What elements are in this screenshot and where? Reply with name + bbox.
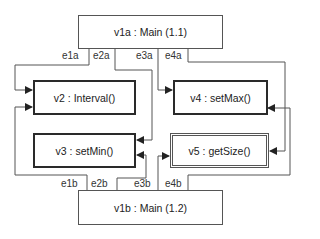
- edge-label-e4a: e4a: [165, 50, 182, 61]
- edge-label-e1b: e1b: [61, 178, 78, 189]
- edge-label-e2a: e2a: [93, 50, 110, 61]
- edge-label-e1a: e1a: [62, 50, 79, 61]
- node-v5-label: v5 : getSize(): [189, 145, 251, 157]
- node-v1b[interactable]: v1b : Main (1.2): [78, 190, 223, 225]
- node-v2-label: v2 : Interval(): [54, 92, 115, 104]
- edge-label-e4b: e4b: [165, 178, 182, 189]
- node-v1a[interactable]: v1a : Main (1.1): [78, 15, 223, 49]
- edge-label-e2b: e2b: [91, 178, 108, 189]
- node-v4-label: v4 : setMax(): [190, 92, 251, 104]
- node-v3[interactable]: v3 : setMin(): [33, 133, 136, 168]
- edge-label-e3b: e3b: [134, 178, 151, 189]
- node-v1a-label: v1a : Main (1.1): [114, 26, 187, 38]
- node-v3-label: v3 : setMin(): [56, 145, 114, 157]
- node-v1b-label: v1b : Main (1.2): [114, 202, 187, 214]
- edge-label-e3a: e3a: [136, 50, 153, 61]
- node-v2[interactable]: v2 : Interval(): [33, 80, 136, 115]
- node-v4[interactable]: v4 : setMax(): [173, 80, 268, 115]
- node-v5[interactable]: v5 : getSize(): [170, 133, 269, 168]
